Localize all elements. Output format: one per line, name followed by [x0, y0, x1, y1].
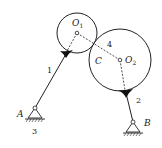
label-link-2: 2: [136, 96, 141, 105]
label-c: C: [95, 56, 102, 66]
link-1: [35, 54, 66, 108]
link-2: [126, 93, 133, 122]
ground-support-a: [25, 106, 45, 122]
pivot-o2: [118, 58, 122, 62]
label-link-1: 1: [47, 66, 52, 75]
label-link-3: 3: [32, 127, 37, 136]
label-o1: O1: [72, 18, 83, 29]
label-b: B: [143, 118, 151, 128]
pivot-o1: [75, 31, 79, 35]
weld-joint-2: [118, 89, 133, 98]
label-link-4: 4: [107, 40, 112, 49]
dashed-o1-joint1: [67, 33, 77, 51]
label-o2: O2: [125, 55, 136, 66]
mechanism-diagram: O1 O2 C 4 1 2 A B 3: [0, 0, 162, 148]
ground-support-b: [123, 120, 143, 136]
weld-joint-1: [60, 50, 73, 58]
label-a: A: [16, 109, 24, 119]
